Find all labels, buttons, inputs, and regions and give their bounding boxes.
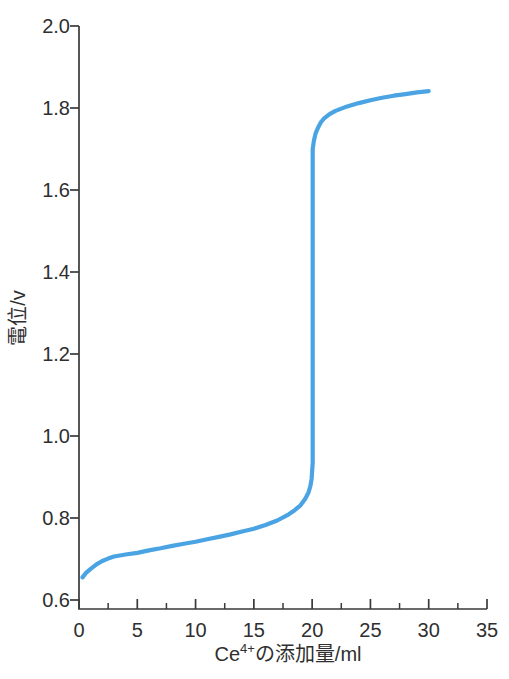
y-tick-label: 2.0 <box>42 15 70 37</box>
y-tick-label: 1.6 <box>42 179 70 201</box>
titration-chart-svg: 0.60.81.01.21.41.61.82.005101520253035 電… <box>0 0 509 679</box>
y-tick-label: 0.6 <box>42 589 70 611</box>
x-tick-label: 20 <box>301 619 323 641</box>
titration-chart-figure: 0.60.81.01.21.41.61.82.005101520253035 電… <box>0 0 509 679</box>
x-tick-label: 25 <box>359 619 381 641</box>
x-tick-label: 15 <box>243 619 265 641</box>
y-tick-label: 1.4 <box>42 261 70 283</box>
x-title-superscript: 4+ <box>240 641 255 656</box>
x-tick-label: 10 <box>184 619 206 641</box>
y-tick-label: 1.0 <box>42 425 70 447</box>
x-tick-label: 30 <box>418 619 440 641</box>
axes <box>79 26 487 609</box>
tick-labels: 0.60.81.01.21.41.61.82.005101520253035 <box>42 15 498 641</box>
y-axis-title: 電位/v <box>7 290 29 346</box>
x-tick-label: 35 <box>476 619 498 641</box>
y-tick-label: 1.2 <box>42 343 70 365</box>
axis-spine <box>79 26 487 609</box>
x-tick-label: 5 <box>132 619 143 641</box>
titration-curve <box>83 91 429 577</box>
x-title-base: Ce <box>214 643 240 665</box>
y-tick-label: 1.8 <box>42 97 70 119</box>
x-title-rest: の添加量/ml <box>255 643 362 665</box>
y-tick-label: 0.8 <box>42 507 70 529</box>
x-axis-title: Ce4+の添加量/ml <box>214 641 361 665</box>
x-tick-label: 0 <box>73 619 84 641</box>
